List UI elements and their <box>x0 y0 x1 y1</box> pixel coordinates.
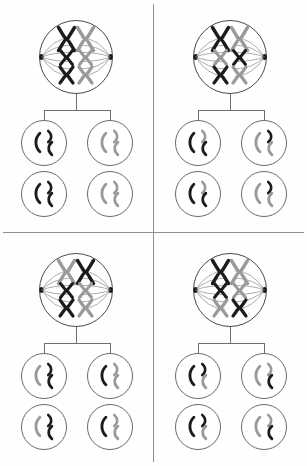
daughter-cell-3c-chromatid-small <box>49 426 52 439</box>
connector-crossbar <box>44 343 110 344</box>
quadrant-bottom-left <box>0 233 153 466</box>
parent-cell-1-chromosome-large-right <box>78 28 94 51</box>
meiosis-figure <box>0 0 307 466</box>
parent-cell-3-chromosome-large-right <box>78 261 94 284</box>
connector-stem <box>76 94 77 110</box>
daughter-cell-1c-chromatid-small <box>49 193 52 206</box>
connector-drop-right <box>264 343 265 353</box>
quadrant-bottom-right <box>154 233 307 466</box>
parent-cell-2-chromosome-small-left <box>214 67 227 83</box>
daughter-cell-1c-chromatid-medium <box>48 182 51 193</box>
daughter-cell-1b-chromatid-large <box>102 133 106 151</box>
daughter-cell-4d-chromatid-large <box>256 417 260 435</box>
daughter-cell-3b-chromatid-large <box>102 366 106 384</box>
daughter-cell-4c-chromatid-medium <box>202 415 205 426</box>
daughter-cell-1b-chromatid-small <box>115 142 118 155</box>
daughter-cell-4b-chromatid-medium <box>268 364 271 375</box>
daughter-cell-2b-chromatid-medium <box>268 131 271 142</box>
daughter-cell-1d-chromatid-large <box>102 184 106 202</box>
daughter-cell-1a-chromatid-medium <box>48 131 51 142</box>
connector-crossbar <box>198 110 264 111</box>
spindle-apparatus <box>40 271 113 309</box>
daughter-cell-1b-chromatid-medium <box>114 131 117 142</box>
parent-cell-3-chromosome-small-left <box>60 300 73 316</box>
daughter-cell-3d-chromatid-medium <box>114 415 117 426</box>
daughter-cell-2a-chromatid-medium <box>202 131 205 142</box>
daughter-cell-1d-chromatid-medium <box>114 182 117 193</box>
parent-cell-2-chromosome-large-right <box>232 28 248 51</box>
daughter-cell-2b-chromatid-large <box>256 133 260 151</box>
connector-drop-right <box>110 110 111 120</box>
spindle-apparatus <box>194 271 267 309</box>
daughter-cell-4a-chromatid-large <box>190 366 194 384</box>
daughter-cell-3a-chromatid-small <box>49 375 52 388</box>
connector-stem <box>76 327 77 343</box>
quadrant-top-left <box>0 0 153 233</box>
daughter-cell-2c-chromatid-large <box>190 184 194 202</box>
connector-drop-left <box>44 110 45 120</box>
daughter-cell-2d-chromatid-medium <box>268 182 271 193</box>
spindle-apparatus <box>40 38 113 76</box>
connector-drop-left <box>198 110 199 120</box>
connector-stem <box>230 327 231 343</box>
parent-cell-4-chromosome-small-left <box>214 300 227 316</box>
daughter-cell-1a-chromatid-small <box>49 142 52 155</box>
daughter-cell-1a-chromatid-large <box>36 133 40 151</box>
spindle-apparatus <box>194 38 267 76</box>
parent-cell-1-chromosome-large-left <box>59 28 75 51</box>
parent-cell-4-chromosome-small-right <box>233 300 246 316</box>
daughter-cell-3c-chromatid-large <box>36 417 40 435</box>
daughter-cell-2a-chromatid-large <box>190 133 194 151</box>
daughter-cell-3d-chromatid-large <box>102 417 106 435</box>
parent-cell-3-chromosome-large-left <box>59 261 75 284</box>
daughter-cell-3b-chromatid-medium <box>114 364 117 375</box>
daughter-cell-4c-chromatid-small <box>203 426 206 439</box>
daughter-cell-2c-chromatid-small <box>203 193 206 206</box>
quadrant-top-right <box>154 0 307 233</box>
daughter-cell-4a-chromatid-small <box>203 375 206 388</box>
daughter-cell-2d-chromatid-large <box>256 184 260 202</box>
daughter-cell-4a-chromatid-medium <box>202 364 205 375</box>
daughter-cell-2d-chromatid-small <box>269 193 272 206</box>
parent-cell-1-chromosome-small-right <box>79 67 92 83</box>
parent-cell-1-chromosome-small-left <box>60 67 73 83</box>
connector-drop-right <box>110 343 111 353</box>
parent-cell-3-chromosome-small-right <box>79 300 92 316</box>
daughter-cell-4d-chromatid-small <box>269 426 272 439</box>
parent-cell-4-chromosome-large-right <box>232 261 248 284</box>
daughter-cell-3a-chromatid-medium <box>48 364 51 375</box>
connector-crossbar <box>198 343 264 344</box>
daughter-cell-1d-chromatid-small <box>115 193 118 206</box>
daughter-cell-4d-chromatid-medium <box>268 415 271 426</box>
daughter-cell-4c-chromatid-large <box>190 417 194 435</box>
parent-cell-2-chromosome-small-right <box>233 67 246 83</box>
daughter-cell-3a-chromatid-large <box>36 366 40 384</box>
connector-drop-left <box>198 343 199 353</box>
daughter-cell-3d-chromatid-small <box>115 426 118 439</box>
daughter-cell-2b-chromatid-small <box>269 142 272 155</box>
daughter-cell-3b-chromatid-small <box>115 375 118 388</box>
parent-cell-2-chromosome-large-left <box>213 28 229 51</box>
daughter-cell-4b-chromatid-small <box>269 375 272 388</box>
connector-stem <box>230 94 231 110</box>
daughter-cell-1c-chromatid-large <box>36 184 40 202</box>
daughter-cell-2a-chromatid-small <box>203 142 206 155</box>
connector-drop-left <box>44 343 45 353</box>
daughter-cell-3c-chromatid-medium <box>48 415 51 426</box>
daughter-cell-4b-chromatid-large <box>256 366 260 384</box>
parent-cell-4-chromosome-large-left <box>213 261 229 284</box>
connector-crossbar <box>44 110 110 111</box>
daughter-cell-2c-chromatid-medium <box>202 182 205 193</box>
connector-drop-right <box>264 110 265 120</box>
